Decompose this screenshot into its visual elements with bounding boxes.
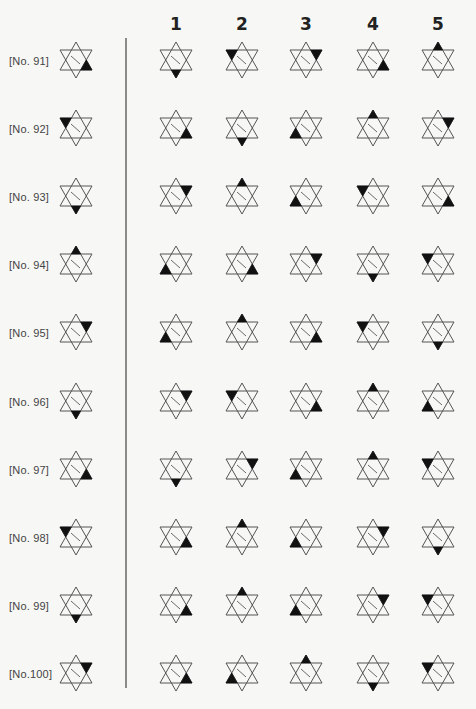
problem-number-label: [No. 94]: [9, 259, 49, 271]
column-header-1: 1: [161, 14, 191, 34]
answer-option-1[interactable]: [158, 653, 194, 693]
answer-option-2[interactable]: [224, 108, 260, 148]
answer-option-3[interactable]: [288, 517, 324, 557]
hexagram-icon: [158, 449, 194, 489]
black-triangle-point: [71, 411, 80, 419]
hexagram-icon: [224, 108, 260, 148]
black-triangle-point: [81, 60, 92, 70]
black-triangle-point: [368, 383, 377, 391]
problem-number-label: [No. 95]: [9, 327, 49, 339]
hexagram-icon: [58, 108, 94, 148]
answer-option-4[interactable]: [355, 449, 391, 489]
black-triangle-point: [311, 50, 322, 60]
answer-option-2[interactable]: [224, 176, 260, 216]
answer-option-4[interactable]: [355, 653, 391, 693]
answer-option-5[interactable]: [420, 449, 456, 489]
black-triangle-point: [368, 110, 377, 118]
answer-option-2[interactable]: [224, 40, 260, 80]
answer-option-4[interactable]: [355, 517, 391, 557]
answer-option-3[interactable]: [288, 585, 324, 625]
problem-figure: [58, 449, 94, 489]
answer-option-5[interactable]: [420, 312, 456, 352]
black-triangle-point: [357, 322, 368, 332]
hexagram-icon: [355, 108, 391, 148]
answer-option-2[interactable]: [224, 517, 260, 557]
hexagram-icon: [288, 176, 324, 216]
column-header-5: 5: [423, 14, 453, 34]
black-triangle-point: [357, 186, 368, 196]
answer-option-4[interactable]: [355, 108, 391, 148]
answer-option-3[interactable]: [288, 653, 324, 693]
answer-option-1[interactable]: [158, 449, 194, 489]
hexagram-icon: [420, 653, 456, 693]
answer-option-5[interactable]: [420, 40, 456, 80]
black-triangle-point: [81, 322, 92, 332]
hexagram-icon: [158, 244, 194, 284]
problem-number-label: [No. 99]: [9, 600, 49, 612]
black-triangle-point: [181, 128, 192, 138]
answer-option-5[interactable]: [420, 381, 456, 421]
answer-option-1[interactable]: [158, 381, 194, 421]
hexagram-icon: [288, 449, 324, 489]
answer-option-3[interactable]: [288, 244, 324, 284]
answer-option-2[interactable]: [224, 449, 260, 489]
hexagram-icon: [58, 312, 94, 352]
hexagram-icon: [420, 517, 456, 557]
answer-option-3[interactable]: [288, 108, 324, 148]
answer-option-2[interactable]: [224, 585, 260, 625]
answer-option-5[interactable]: [420, 108, 456, 148]
answer-option-2[interactable]: [224, 653, 260, 693]
answer-option-1[interactable]: [158, 176, 194, 216]
answer-option-1[interactable]: [158, 312, 194, 352]
answer-option-1[interactable]: [158, 585, 194, 625]
answer-option-5[interactable]: [420, 244, 456, 284]
answer-option-1[interactable]: [158, 244, 194, 284]
answer-option-4[interactable]: [355, 40, 391, 80]
black-triangle-point: [433, 42, 442, 50]
hexagram-icon: [420, 585, 456, 625]
hexagram-icon: [58, 40, 94, 80]
answer-option-5[interactable]: [420, 653, 456, 693]
answer-option-4[interactable]: [355, 244, 391, 284]
black-triangle-point: [290, 128, 301, 138]
black-triangle-point: [71, 246, 80, 254]
hexagram-icon: [355, 244, 391, 284]
answer-option-3[interactable]: [288, 449, 324, 489]
hexagram-icon: [224, 244, 260, 284]
black-triangle-point: [422, 595, 433, 605]
answer-option-1[interactable]: [158, 108, 194, 148]
answer-option-5[interactable]: [420, 176, 456, 216]
hexagram-icon: [355, 585, 391, 625]
answer-option-5[interactable]: [420, 517, 456, 557]
black-triangle-point: [311, 254, 322, 264]
answer-option-2[interactable]: [224, 312, 260, 352]
answer-option-3[interactable]: [288, 312, 324, 352]
hexagram-icon: [224, 176, 260, 216]
answer-option-4[interactable]: [355, 312, 391, 352]
hexagram-icon: [58, 176, 94, 216]
problem-figure: [58, 244, 94, 284]
black-triangle-point: [290, 469, 301, 479]
answer-option-4[interactable]: [355, 585, 391, 625]
hexagram-icon: [355, 449, 391, 489]
answer-option-4[interactable]: [355, 176, 391, 216]
black-triangle-point: [290, 605, 301, 615]
black-triangle-point: [368, 683, 377, 691]
black-triangle-point: [181, 186, 192, 196]
black-triangle-point: [422, 254, 433, 264]
answer-option-1[interactable]: [158, 40, 194, 80]
hexagram-icon: [288, 244, 324, 284]
answer-option-4[interactable]: [355, 381, 391, 421]
answer-option-2[interactable]: [224, 244, 260, 284]
black-triangle-point: [71, 206, 80, 214]
hexagram-icon: [288, 585, 324, 625]
problem-number-label: [No. 96]: [9, 396, 49, 408]
answer-option-1[interactable]: [158, 517, 194, 557]
black-triangle-point: [301, 655, 310, 663]
answer-option-3[interactable]: [288, 40, 324, 80]
problem-number-label: [No.100]: [9, 668, 52, 680]
answer-option-3[interactable]: [288, 176, 324, 216]
answer-option-2[interactable]: [224, 381, 260, 421]
answer-option-5[interactable]: [420, 585, 456, 625]
answer-option-3[interactable]: [288, 381, 324, 421]
